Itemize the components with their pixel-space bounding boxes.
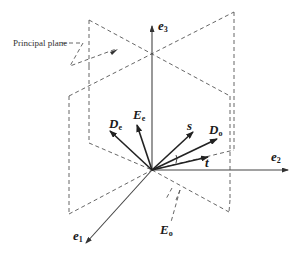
principal-plane-outline — [62, 12, 234, 222]
vector-label-Ee: Ee — [133, 108, 145, 123]
principal-plane-label: Principal plane — [13, 39, 67, 48]
axis-label-e2: e2 — [271, 150, 281, 165]
vector-label-s: s — [187, 119, 192, 132]
axis-label-e1: e1 — [73, 229, 83, 244]
field-vectors — [110, 125, 217, 170]
axes — [86, 26, 288, 243]
vector-label-Eo: Eo — [160, 223, 173, 238]
vector-label-Do: Do — [209, 123, 222, 138]
vector-label-De: De — [109, 117, 122, 132]
vector-label-t: t — [205, 156, 209, 169]
optics-vector-diagram: Principal plane e3 e2 e1 De Ee s Do t Eo — [0, 0, 299, 257]
axis-label-e3: e3 — [158, 19, 168, 34]
